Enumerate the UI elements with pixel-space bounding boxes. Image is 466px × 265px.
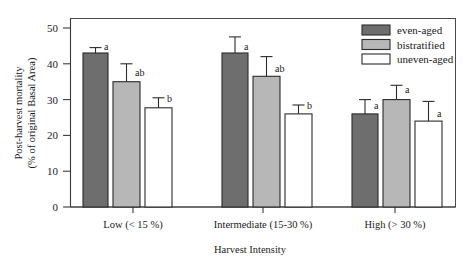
sig-letter-low-uneven-aged: b	[167, 93, 172, 104]
sig-letter-intermediate-bistratified: ab	[275, 63, 284, 74]
legend-swatch-bistratified	[362, 40, 390, 50]
legend-label-uneven-aged: uneven-aged	[397, 53, 454, 65]
y-axis-title-line1: Post-harvest mortality	[13, 66, 24, 160]
sig-letter-intermediate-even-aged: a	[244, 41, 249, 52]
y-tick-label-20: 20	[47, 129, 59, 141]
legend-swatch-even-aged	[362, 25, 390, 35]
x-tick-label-high: High (> 30 %)	[364, 219, 426, 231]
legend-label-even-aged: even-aged	[397, 24, 443, 36]
errorbar-high-bistratified	[391, 85, 403, 99]
sig-letter-low-bistratified: ab	[135, 67, 144, 78]
sig-letter-high-uneven-aged: a	[437, 108, 442, 119]
y-axis-title-line2: (% of original Basal Area)	[26, 57, 38, 168]
sig-letter-high-even-aged: a	[374, 100, 379, 111]
y-axis-ticks	[63, 28, 71, 207]
y-tick-label-0: 0	[53, 201, 59, 213]
bar-low-bistratified	[113, 82, 140, 207]
sig-letter-low-even-aged: a	[104, 41, 109, 52]
bar-high-bistratified	[383, 100, 410, 207]
errorbar-high-even-aged	[359, 100, 371, 114]
errorbar-low-even-aged	[90, 48, 102, 53]
legend-label-bistratified: bistratified	[397, 39, 445, 51]
sig-letter-high-bistratified: a	[405, 84, 410, 95]
x-tick-label-low: Low (< 15 %)	[103, 219, 163, 231]
bar-low-even-aged	[83, 53, 108, 207]
y-tick-label-40: 40	[47, 58, 59, 70]
errorbar-high-uneven-aged	[423, 101, 435, 121]
errorbar-intermediate-uneven-aged	[293, 105, 305, 114]
y-tick-label-30: 30	[47, 94, 59, 106]
y-tick-label-10: 10	[47, 165, 59, 177]
errorbar-low-uneven-aged	[153, 98, 165, 108]
legend-swatch-uneven-aged	[362, 54, 390, 64]
bar-low-uneven-aged	[145, 108, 172, 207]
bar-intermediate-uneven-aged	[285, 114, 312, 207]
x-axis-ticks	[133, 207, 395, 213]
bar-intermediate-even-aged	[222, 53, 248, 207]
errorbar-low-bistratified	[121, 64, 133, 82]
x-axis-title: Harvest Intensity	[214, 244, 287, 255]
errorbar-intermediate-bistratified	[261, 57, 273, 77]
bar-high-even-aged	[352, 114, 378, 207]
bar-high-uneven-aged	[415, 121, 442, 207]
chart-canvas: 0 10 20 30 40 50 Post-harvest mortality …	[0, 0, 466, 265]
errorbar-intermediate-even-aged	[229, 37, 241, 53]
sig-letter-intermediate-uneven-aged: b	[307, 100, 312, 111]
y-tick-label-50: 50	[47, 22, 59, 34]
chart-figure: 0 10 20 30 40 50 Post-harvest mortality …	[0, 0, 466, 265]
legend: even-aged bistratified uneven-aged	[362, 24, 454, 65]
x-tick-label-intermediate: Intermediate (15-30 %)	[214, 219, 313, 231]
bar-intermediate-bistratified	[253, 76, 280, 207]
